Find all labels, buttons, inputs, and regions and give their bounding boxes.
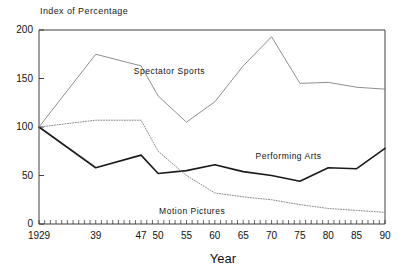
x-tick-label-47: 47	[132, 230, 150, 241]
x-tick-label-50: 50	[149, 230, 167, 241]
series-line-motion-pictures	[39, 120, 385, 212]
x-tick-label-55: 55	[177, 230, 195, 241]
x-tick-label-85: 85	[348, 230, 366, 241]
chart-plot-svg	[0, 0, 402, 276]
x-tick-label-80: 80	[319, 230, 337, 241]
x-tick-label-75: 75	[291, 230, 309, 241]
axes-group	[39, 30, 385, 224]
y-tick-label-150: 150	[7, 73, 33, 84]
data-series-group	[39, 37, 385, 213]
x-tick-label-65: 65	[234, 230, 252, 241]
y-tick-label-100: 100	[7, 121, 33, 132]
x-tick-label-70: 70	[263, 230, 281, 241]
x-tick-label-60: 60	[206, 230, 224, 241]
y-tick-label-0: 0	[7, 218, 33, 229]
x-tick-label-39: 39	[87, 230, 105, 241]
y-tick-label-200: 200	[7, 24, 33, 35]
y-tick-label-50: 50	[7, 170, 33, 181]
x-tick-label-1929: 1929	[24, 230, 54, 241]
x-axis-title: Year	[22, 251, 402, 266]
series-annotation-performing-arts: Performing Arts	[256, 151, 322, 161]
series-line-spectator-sports	[39, 37, 385, 127]
series-annotation-spectator-sports: Spectator Sports	[134, 66, 205, 76]
series-line-performing-arts	[39, 127, 385, 181]
chart-container: Index of Percentage 050100150200 1929394…	[0, 0, 402, 276]
x-tick-label-90: 90	[376, 230, 394, 241]
series-annotation-motion-pictures: Motion Pictures	[159, 206, 225, 216]
tick-marks-group	[39, 30, 385, 224]
